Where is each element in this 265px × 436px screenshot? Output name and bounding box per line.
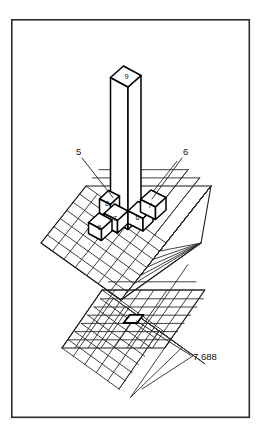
technical-drawing: 9 8 7 6 6 xyxy=(0,0,265,436)
figure-root: 9 8 7 6 6 xyxy=(0,0,265,436)
leader-5-label: 5 xyxy=(76,146,81,157)
block-front-left-label: 6 xyxy=(98,223,102,232)
block-front-middle-label: 7 xyxy=(113,214,117,223)
block-right-upper-label: 7 xyxy=(148,201,152,210)
column-top-label: 9 xyxy=(124,72,128,81)
block-back-left-label: 8 xyxy=(105,199,109,208)
leader-6-label: 6 xyxy=(183,146,188,157)
highlighted-cell-value: 7.688 xyxy=(193,351,217,362)
block-front-right-label: 6 xyxy=(136,213,140,222)
